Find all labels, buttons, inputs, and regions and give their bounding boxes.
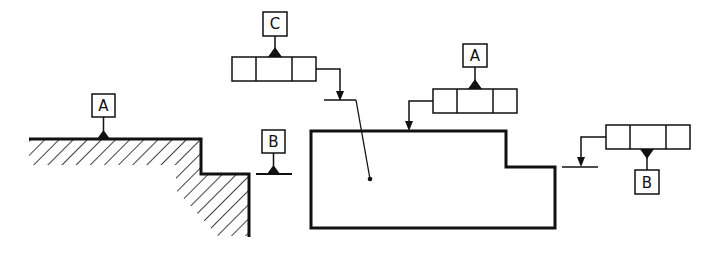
datum-a-label: A	[98, 97, 109, 115]
left-part	[29, 139, 249, 237]
datum-triangle-icon	[268, 47, 282, 57]
leader-dot-icon	[368, 177, 373, 182]
datum-triangle-icon	[267, 165, 280, 174]
fcf-b-frame	[606, 125, 690, 149]
datum-b-label: B	[642, 174, 652, 192]
fcf-a-frame	[433, 89, 517, 113]
datum-a-label: A	[470, 47, 481, 65]
datum-triangle-icon	[97, 130, 110, 139]
fcf-c-frame	[232, 57, 316, 81]
datum-b-left: B	[256, 130, 292, 174]
leader-line	[316, 69, 340, 92]
datum-b-label: B	[268, 133, 278, 151]
right-part-outline	[311, 131, 555, 228]
feature-control-frame-c: C	[232, 12, 372, 181]
datum-a-left: A	[92, 94, 115, 139]
datum-triangle-icon	[468, 79, 482, 89]
leader-line	[409, 101, 433, 122]
datum-c-label: C	[270, 15, 280, 33]
feature-control-frame-a: A	[405, 44, 517, 131]
gdt-drawing: A B C A	[0, 0, 716, 254]
feature-control-frame-b: B	[562, 125, 690, 194]
arrowhead-icon	[577, 157, 585, 167]
hatching	[29, 140, 249, 236]
slanted-leader	[356, 100, 370, 179]
leader-line	[581, 137, 606, 158]
